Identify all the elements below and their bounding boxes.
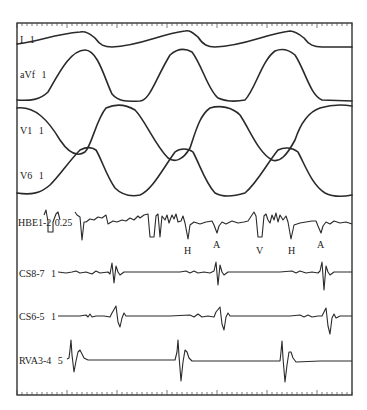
time-ticks-top bbox=[17, 23, 352, 28]
trace-HBE1-2 bbox=[44, 210, 352, 240]
trace-CS8-7 bbox=[58, 262, 352, 290]
marker-V: V bbox=[256, 245, 264, 256]
trace-aVf bbox=[17, 49, 352, 101]
marker-H-2: H bbox=[288, 245, 295, 256]
ecg-canvas: I 1 aVf 1 V1 1 V6 1 HBE1-2 0.25 CS8-7 1 … bbox=[0, 0, 367, 410]
channel-label-aVf: aVf 1 bbox=[20, 69, 47, 80]
ecg-figure: I 1 aVf 1 V1 1 V6 1 HBE1-2 0.25 CS8-7 1 … bbox=[0, 0, 367, 410]
channel-label-RVA3-4: RVA3-4 5 bbox=[19, 355, 63, 366]
channel-label-HBE: HBE1-2 0.25 bbox=[18, 217, 72, 228]
trace-CS6-5 bbox=[58, 306, 352, 334]
channel-label-V1: V1 1 bbox=[20, 125, 44, 136]
plot-frame bbox=[17, 23, 352, 395]
trace-I bbox=[17, 31, 352, 47]
channel-label-V6: V6 1 bbox=[20, 170, 44, 181]
channel-label-CS6-5: CS6-5 1 bbox=[19, 311, 56, 322]
time-ticks-bottom bbox=[17, 390, 352, 395]
channel-label-CS8-7: CS8-7 1 bbox=[19, 268, 56, 279]
trace-RVA3-4 bbox=[67, 340, 352, 382]
trace-V1 bbox=[17, 105, 352, 161]
marker-A-1: A bbox=[213, 239, 221, 250]
marker-H-1: H bbox=[184, 245, 191, 256]
marker-A-2: A bbox=[317, 239, 325, 250]
